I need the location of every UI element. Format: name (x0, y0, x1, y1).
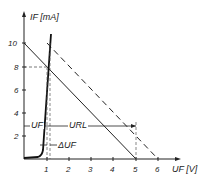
url-label: URL (69, 120, 87, 130)
y-tick-8: 8 (14, 63, 19, 72)
x-tick-1: 1 (44, 165, 48, 174)
y-tick-4: 4 (14, 109, 19, 118)
x-tick-3: 3 (88, 165, 93, 174)
x-tick-5: 5 (133, 165, 138, 174)
url-arrowhead-icon (131, 124, 136, 128)
uf-label: UF (31, 120, 43, 130)
load-line-solid (24, 43, 136, 159)
y-axis-arrow-icon (22, 11, 26, 17)
x-axis-arrow-icon (175, 157, 181, 161)
x-tick-4: 4 (110, 165, 115, 174)
y-axis-label: IF [mA] (30, 12, 59, 22)
y-tick-6: 6 (14, 86, 19, 95)
x-tick-2: 2 (65, 165, 71, 174)
diode-load-line-diagram: 10 8 6 4 2 1 2 3 4 5 6 IF [mA] UF [V] UF… (0, 0, 208, 184)
x-axis-label: UF [V] (172, 164, 198, 174)
x-tick-6: 6 (155, 165, 160, 174)
delta-uf-label: ΔUF (57, 140, 77, 150)
y-tick-2: 2 (13, 132, 19, 141)
y-tick-10: 10 (8, 39, 17, 48)
